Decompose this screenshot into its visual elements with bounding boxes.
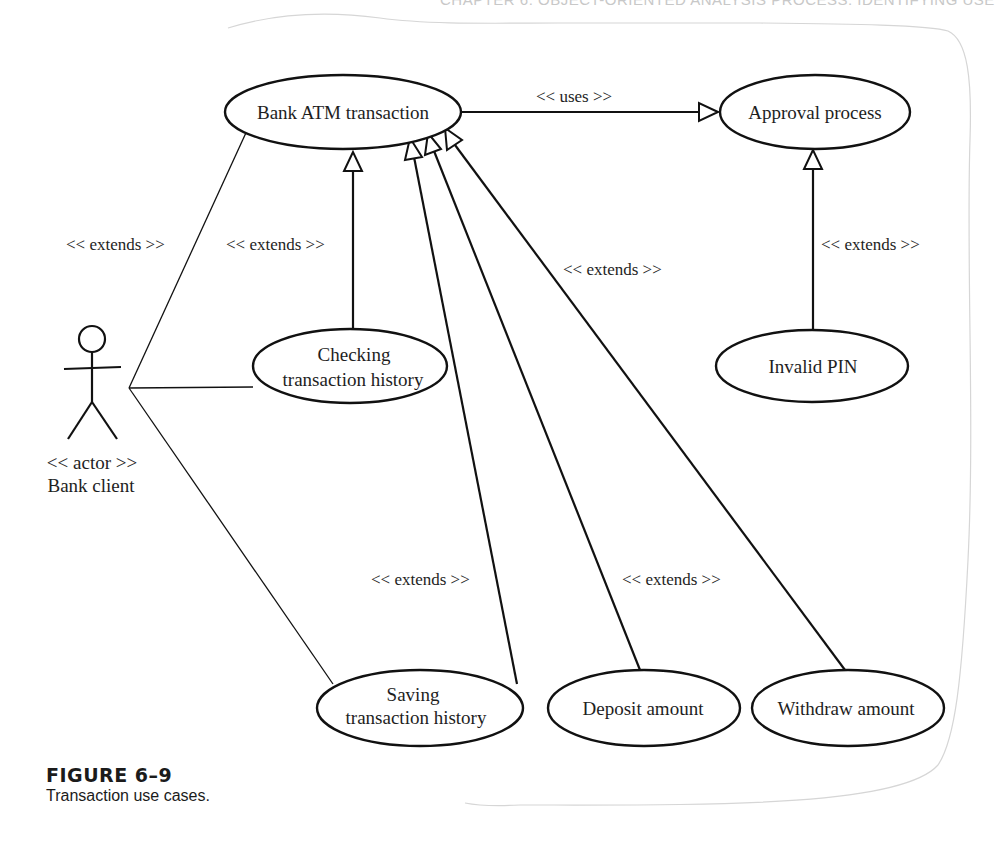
use-case-invalid-pin[interactable]: Invalid PIN — [716, 330, 908, 402]
checking-extends-label: << extends >> — [226, 235, 325, 254]
use-case-withdraw-amount[interactable]: Withdraw amount — [752, 670, 944, 746]
actor-to-bank-atm-line — [129, 124, 250, 388]
actor-associations — [129, 124, 333, 684]
generalization-arrowhead-icon — [699, 103, 718, 121]
uses-label: << uses >> — [536, 87, 612, 106]
figure-number: FIGURE 6–9 — [46, 764, 210, 786]
use-case-label: Deposit amount — [583, 698, 705, 719]
actor-name: Bank client — [47, 475, 135, 496]
figure-caption: FIGURE 6–9 Transaction use cases. — [46, 764, 210, 805]
use-case-bank-atm-transaction[interactable]: Bank ATM transaction — [225, 75, 461, 149]
use-case-checking-transaction-history[interactable]: Checking transaction history — [253, 329, 447, 403]
use-case-label: Bank ATM transaction — [257, 102, 430, 123]
saving-extends-label: << extends >> — [371, 570, 470, 589]
use-case-label: Withdraw amount — [778, 698, 916, 719]
use-case-saving-transaction-history[interactable]: Saving transaction history — [317, 670, 523, 746]
use-case-label: Invalid PIN — [768, 356, 857, 377]
use-case-label-line2: transaction history — [346, 707, 487, 728]
use-case-label-line1: Checking — [318, 344, 391, 365]
withdraw-extends-label: << extends >> — [563, 260, 662, 279]
generalization-arrowhead-icon — [344, 152, 362, 171]
actor-stereotype: << actor >> — [47, 452, 137, 473]
use-case-deposit-amount[interactable]: Deposit amount — [548, 670, 740, 746]
checking-extends-line — [344, 152, 362, 329]
generalization-arrowhead-icon — [445, 128, 462, 150]
invalid-pin-extends-label: << extends >> — [821, 235, 920, 254]
actor-to-saving-line — [129, 388, 333, 684]
actor-extends-label: << extends >> — [66, 235, 165, 254]
use-case-label-line1: Saving — [387, 684, 440, 705]
deposit-extends-label: << extends >> — [622, 570, 721, 589]
deposit-extends-line — [425, 133, 640, 670]
invalid-pin-extends-line — [804, 150, 822, 330]
use-case-approval-process[interactable]: Approval process — [720, 75, 910, 149]
use-case-label-line2: transaction history — [283, 369, 424, 390]
figure-description: Transaction use cases. — [46, 787, 210, 805]
generalization-arrowhead-icon — [804, 150, 822, 169]
actor-to-checking-line — [129, 387, 253, 388]
use-case-label: Approval process — [748, 102, 882, 123]
stick-figure-icon[interactable] — [64, 326, 121, 439]
